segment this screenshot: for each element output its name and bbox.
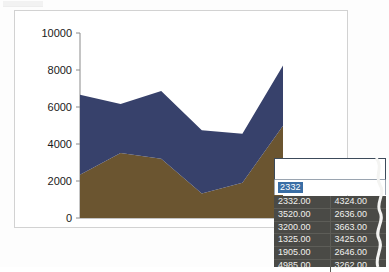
y-axis-ticks xyxy=(76,33,80,218)
table-cell[interactable]: 3663.00 xyxy=(330,222,387,234)
table-cell[interactable]: 3200.00 xyxy=(274,222,330,234)
table-cell[interactable]: 4985.00 xyxy=(274,260,330,272)
table-cell[interactable]: 4324.00 xyxy=(330,196,387,208)
toolbar-sliver xyxy=(3,1,43,7)
y-tick-label: 8000 xyxy=(48,64,72,76)
panel-header-blank xyxy=(274,158,386,180)
table-row[interactable]: 2332.004324.00 xyxy=(274,196,386,209)
table-row[interactable]: 3520.002636.00 xyxy=(274,209,386,222)
value-edit-row[interactable]: 2332 xyxy=(274,180,386,195)
y-tick-label: 2000 xyxy=(48,175,72,187)
table-cell[interactable]: 2332.00 xyxy=(274,196,330,208)
y-tick-label: 10000 xyxy=(41,27,72,39)
table-cell[interactable]: 1325.00 xyxy=(274,234,330,246)
data-grid[interactable]: 2332.004324.003520.002636.003200.003663.… xyxy=(274,196,386,267)
table-row[interactable]: 1325.003425.00 xyxy=(274,234,386,247)
table-row[interactable]: 3200.003663.00 xyxy=(274,222,386,235)
y-axis-tick-labels: 0200040006000800010000 xyxy=(41,27,72,224)
table-row[interactable]: 1905.002646.00 xyxy=(274,247,386,260)
table-cell[interactable]: 1905.00 xyxy=(274,247,330,259)
table-cell[interactable]: 3520.00 xyxy=(274,209,330,221)
table-cell[interactable]: 2636.00 xyxy=(330,209,387,221)
y-tick-label: 4000 xyxy=(48,138,72,150)
data-entry-panel[interactable]: 2332 2332.004324.003520.002636.003200.00… xyxy=(274,158,386,267)
table-cell[interactable]: 3262.00 xyxy=(330,260,387,272)
table-row[interactable]: 4985.003262.00 xyxy=(274,260,386,272)
table-cell[interactable]: 2646.00 xyxy=(330,247,387,259)
y-tick-label: 6000 xyxy=(48,101,72,113)
cell-edit-input[interactable]: 2332 xyxy=(278,182,303,193)
y-tick-label: 0 xyxy=(66,212,72,224)
table-cell[interactable]: 3425.00 xyxy=(330,234,387,246)
